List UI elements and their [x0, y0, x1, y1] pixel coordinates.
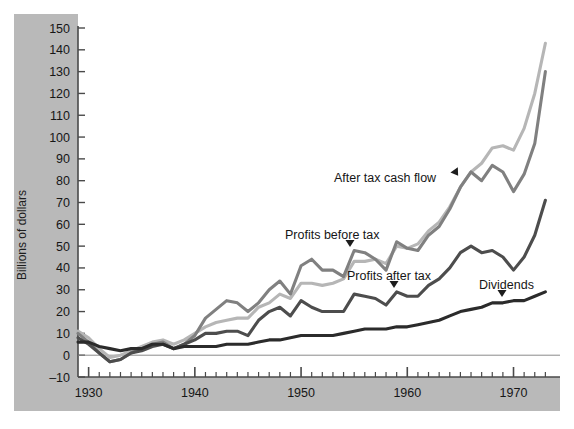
annotation-pointer-profits-after-tax — [390, 281, 399, 288]
x-tick-label: 1950 — [287, 386, 315, 400]
y-tick-label: –10 — [49, 371, 70, 385]
x-axis: 19301940195019601970 — [75, 367, 560, 400]
y-axis: –100102030405060708090100110120130140150 — [49, 22, 85, 385]
series-line-profits-after-tax — [78, 200, 545, 361]
y-tick-label: 140 — [49, 43, 70, 57]
y-tick-label: 0 — [63, 349, 70, 363]
y-tick-label: 150 — [49, 22, 70, 36]
annotation-pointer-dividends — [498, 290, 507, 297]
y-tick-label: 40 — [56, 261, 70, 275]
y-tick-label: 50 — [56, 240, 70, 254]
annotation-label-dividends: Dividends — [479, 278, 534, 292]
x-tick-label: 1970 — [500, 386, 528, 400]
x-tick-label: 1930 — [75, 386, 103, 400]
y-tick-label: 20 — [56, 305, 70, 319]
y-tick-label: 110 — [50, 109, 70, 123]
y-tick-label: 30 — [56, 283, 70, 297]
y-tick-label: 100 — [49, 131, 70, 145]
y-tick-label: 10 — [56, 327, 70, 341]
chart-figure: –100102030405060708090100110120130140150… — [0, 0, 574, 429]
y-tick-label: 70 — [56, 196, 70, 210]
y-axis-title: Billions of dollars — [15, 190, 29, 280]
line-chart: –100102030405060708090100110120130140150… — [0, 0, 574, 429]
series-line-after-tax-cash-flow — [78, 43, 545, 357]
annotation-label-profits-after-tax: Profits after tax — [347, 269, 432, 283]
x-tick-label: 1960 — [393, 386, 421, 400]
y-tick-label: 90 — [56, 152, 70, 166]
data-series-group — [78, 43, 545, 361]
x-tick-label: 1940 — [181, 386, 209, 400]
y-tick-label: 80 — [56, 174, 70, 188]
y-tick-label: 60 — [56, 218, 70, 232]
annotations-group: After tax cash flowProfits before taxPro… — [285, 167, 534, 297]
annotation-label-profits-before-tax: Profits before tax — [285, 228, 380, 242]
annotation-pointer-profits-before-tax — [346, 240, 355, 247]
series-line-profits-before-tax — [78, 72, 545, 362]
annotation-label-after-tax-cash-flow: After tax cash flow — [334, 171, 437, 185]
y-tick-label: 120 — [49, 87, 70, 101]
annotation-pointer-after-tax-cash-flow — [450, 167, 461, 178]
series-line-dividends — [78, 292, 545, 351]
y-tick-label: 130 — [49, 65, 70, 79]
